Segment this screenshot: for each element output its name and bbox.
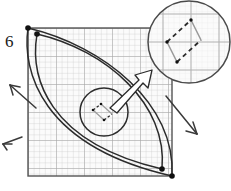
source-vertex-left xyxy=(92,109,95,112)
arrow-lower-left xyxy=(3,137,22,150)
lens-vertex-bottom xyxy=(175,60,178,63)
point-outer-top-left xyxy=(25,25,31,31)
source-vertex-top xyxy=(100,103,103,106)
source-vertex-bottom xyxy=(103,119,106,122)
point-outer-bottom-right xyxy=(169,173,175,179)
lens-vertex-top xyxy=(189,18,192,21)
lens-vertex-left xyxy=(165,40,168,43)
geometry-diagram: 6 xyxy=(0,0,231,191)
point-inner-bottom-right xyxy=(159,166,165,172)
point-inner-top-left xyxy=(34,31,40,37)
figure-root: 6 xyxy=(0,0,231,191)
magnifier-lens xyxy=(148,1,231,84)
corner-value-label: 6 xyxy=(5,32,14,51)
